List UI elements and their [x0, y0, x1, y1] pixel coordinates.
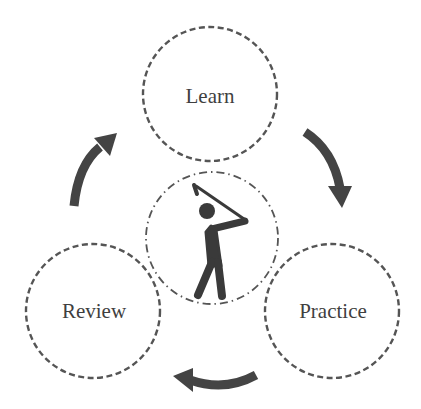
practice-label: Practice: [299, 299, 367, 324]
review-label: Review: [62, 299, 126, 324]
cycle-diagram: [0, 0, 421, 409]
learn-label: Learn: [186, 84, 235, 109]
golfer-icon: [194, 185, 245, 296]
arrow-practice-to-review-icon: [173, 368, 256, 392]
arrow-learn-to-practice-icon: [305, 132, 352, 208]
arrow-review-to-learn-icon: [74, 133, 117, 206]
